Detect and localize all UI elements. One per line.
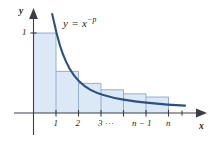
x-tick-label-n: n [166,119,171,128]
y-axis-label: y [19,7,23,17]
curve-equation-base: y = x [63,17,87,29]
rectangle-5 [124,94,147,113]
x-tick-label-3: 3 [98,119,103,128]
x-tick-label-1: 1 [54,119,59,128]
riemann-rectangles [34,33,169,113]
x-tick-label-2: 2 [76,119,81,128]
rectangle-4 [101,90,124,113]
rectangle-1 [34,33,57,113]
curve-equation-exponent: −p [87,15,96,24]
integral-test-figure: y x 1 y = x−p 1 2 3 ⋯ n − 1 n [0,0,216,146]
x-tick-label-n-minus-1: n − 1 [132,119,152,128]
curve-equation-label: y = x−p [63,16,97,29]
y-tick-label-1: 1 [22,28,27,37]
rectangle-3 [79,83,102,113]
x-axis-ellipsis: ⋯ [105,120,115,129]
x-axis-label: x [199,122,204,132]
